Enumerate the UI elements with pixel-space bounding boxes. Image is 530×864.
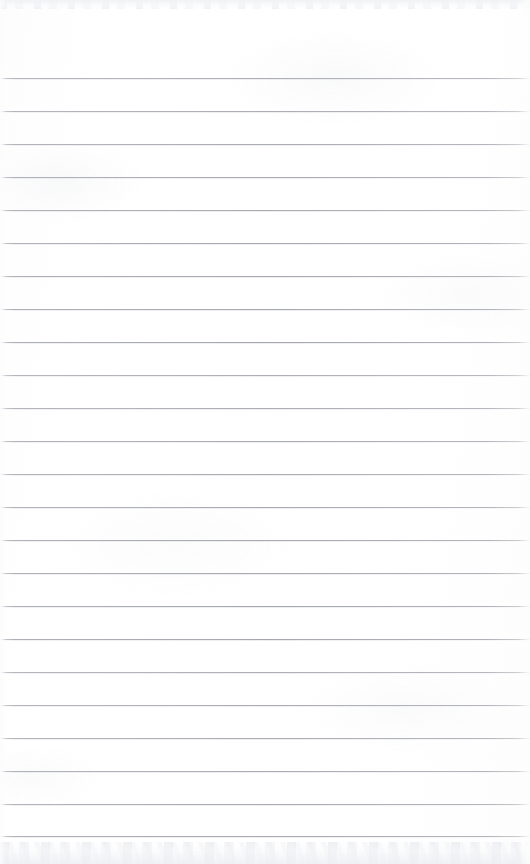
scan-noise-band-top (0, 0, 530, 9)
ruled-line (0, 441, 530, 442)
ruled-line (0, 606, 530, 607)
paper-surface (0, 0, 530, 864)
ruled-line (0, 408, 530, 409)
scanned-page (0, 0, 530, 864)
ruled-line (0, 771, 530, 772)
ruled-line (0, 573, 530, 574)
ruled-line (0, 243, 530, 244)
ruled-line (0, 210, 530, 211)
ruled-line (0, 111, 530, 112)
ruled-line (0, 672, 530, 673)
ruled-line (0, 804, 530, 805)
ruled-line (0, 177, 530, 178)
ruled-line (0, 705, 530, 706)
ruled-line (0, 309, 530, 310)
scan-noise-band-bottom (0, 842, 530, 864)
ruled-line (0, 276, 530, 277)
ruled-line (0, 738, 530, 739)
ruled-line (0, 375, 530, 376)
ruled-line (0, 474, 530, 475)
ruled-line (0, 836, 530, 837)
scan-edge-right (518, 0, 530, 864)
scan-edge-left (0, 0, 6, 864)
ruled-line (0, 639, 530, 640)
ruled-line (0, 144, 530, 145)
paper-mottle-texture (0, 0, 530, 864)
ruled-line (0, 540, 530, 541)
ruled-line (0, 507, 530, 508)
ruled-lines-layer (0, 0, 530, 864)
ruled-line (0, 342, 530, 343)
ruled-line (0, 78, 530, 79)
